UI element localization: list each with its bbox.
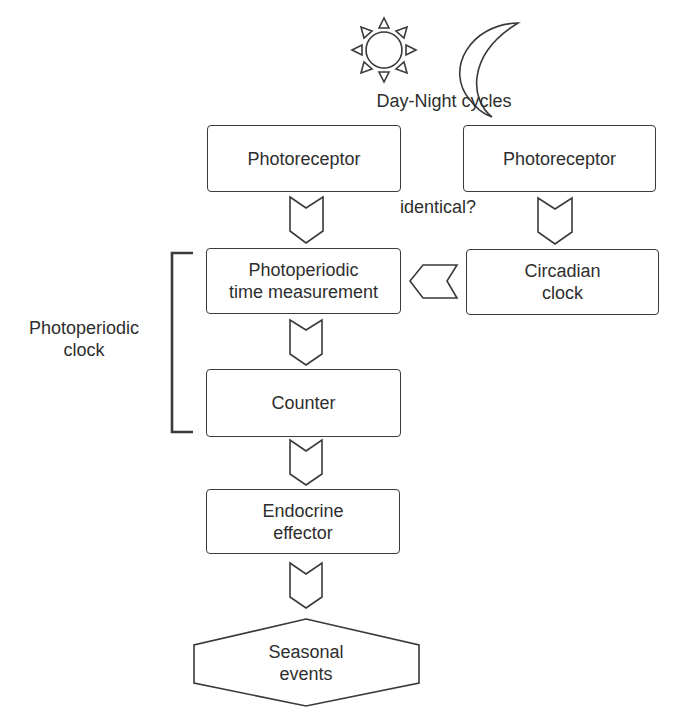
node-photoreceptor-left: Photoreceptor (207, 125, 401, 192)
day-night-caption: Day-Night cycles (355, 90, 533, 112)
node-label: Circadian clock (524, 260, 600, 304)
left-arrow-icon (410, 265, 457, 298)
identical-annotation: identical? (392, 196, 484, 218)
node-label: Photoreceptor (247, 148, 360, 170)
down-arrow-icon (290, 563, 322, 608)
node-label: Counter (271, 392, 335, 414)
group-bracket (172, 253, 193, 432)
node-seasonal-events-label: Seasonal events (226, 641, 386, 685)
node-label: Endocrine effector (262, 500, 343, 544)
group-label-photoperiodic-clock: Photoperiodic clock (18, 317, 150, 361)
node-label: Photoperiodic time measurement (229, 259, 378, 303)
down-arrow-icon (290, 320, 322, 365)
node-photoperiodic-time-measurement: Photoperiodic time measurement (206, 248, 401, 314)
down-arrow-icon (290, 440, 322, 485)
node-label: Photoreceptor (503, 148, 616, 170)
down-arrow-icon (538, 198, 572, 244)
down-arrow-icon (290, 197, 323, 243)
node-photoreceptor-right: Photoreceptor (463, 125, 656, 192)
node-counter: Counter (206, 369, 401, 437)
node-endocrine-effector: Endocrine effector (206, 489, 400, 554)
sun-icon (352, 18, 416, 82)
diagram-canvas: Day-Night cycles Photoreceptor Photorece… (0, 0, 685, 710)
node-circadian-clock: Circadian clock (466, 249, 659, 315)
